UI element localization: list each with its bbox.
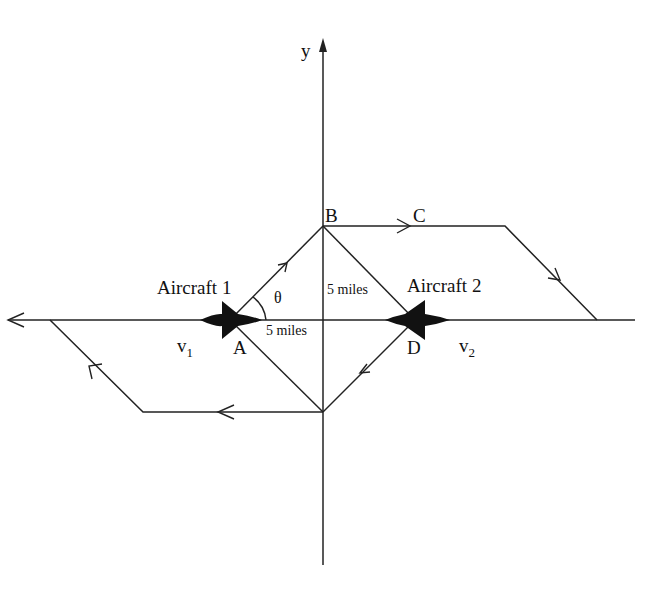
velocity-1-symbol: v — [177, 335, 187, 356]
y-axis-arrow-icon — [319, 38, 327, 52]
path-aircraft1 — [323, 226, 597, 320]
velocity-2-label: v2 — [459, 336, 475, 359]
velocity-1-label: v1 — [177, 336, 193, 359]
velocity-1-subscript: 1 — [187, 345, 194, 360]
arrow-cdown-icon — [548, 268, 560, 280]
point-b-label: B — [325, 206, 338, 225]
point-a-label: A — [233, 338, 247, 357]
arrow-dbottom-icon — [360, 364, 370, 373]
velocity-2-subscript: 2 — [469, 345, 476, 360]
angle-theta-label: θ — [274, 290, 282, 306]
point-d-label: D — [407, 338, 421, 357]
segment-b-d — [323, 226, 415, 320]
arrow-leftdiag-icon — [89, 364, 102, 379]
aircraft-2-label: Aircraft 2 — [407, 276, 481, 295]
velocity-2-symbol: v — [459, 335, 469, 356]
arrowheads — [8, 38, 560, 419]
aircraft-1-label: Aircraft 1 — [157, 278, 231, 297]
angle-arc — [253, 297, 266, 320]
segment-d-bottom — [323, 320, 415, 412]
y-axis-label: y — [301, 41, 311, 60]
horizontal-distance-label: 5 miles — [266, 324, 307, 338]
aircraft-1-icon — [200, 301, 262, 339]
aircraft-2-icon — [385, 300, 450, 340]
diagonal-distance-label: 5 miles — [327, 283, 368, 297]
point-c-label: C — [413, 206, 426, 225]
